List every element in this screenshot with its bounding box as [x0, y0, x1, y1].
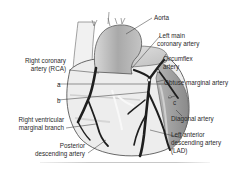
- bottom-divider: [40, 162, 210, 163]
- label-a: a: [57, 81, 61, 88]
- label-rv-marginal-line2: marginal branch: [19, 124, 64, 131]
- label-rca-line2: artery (RCA): [31, 65, 66, 72]
- label-aorta: Aorta: [154, 14, 169, 21]
- label-left-main-line2: coronary artery: [157, 40, 199, 47]
- label-lad-line2: descending artery: [171, 139, 221, 146]
- label-pda-line1: Posterior: [60, 142, 85, 149]
- label-left-main-line1: Left main: [159, 32, 185, 39]
- label-circumflex-line2: artery: [163, 63, 179, 70]
- label-c: c: [173, 99, 176, 106]
- label-diagonal-artery: Diagonal artery: [171, 115, 214, 122]
- label-obtuse-marginal-artery: Obtuse marginal artery: [164, 79, 228, 86]
- label-b: b: [57, 97, 61, 104]
- label-rca-line1: Right coronary: [25, 57, 66, 64]
- label-rv-marginal-line1: Right ventricular: [19, 116, 65, 123]
- label-lad-line1: Left anterior: [171, 131, 205, 138]
- label-pda-line2: descending artery: [35, 150, 85, 157]
- label-circumflex-line1: Circumflex: [163, 55, 193, 62]
- label-lad-line3: (LAD): [171, 147, 187, 154]
